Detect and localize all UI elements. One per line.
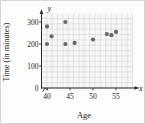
data-point <box>114 30 118 34</box>
data-point <box>45 42 49 46</box>
data-point <box>63 42 67 46</box>
data-point <box>63 20 67 24</box>
y-tick-label: 200 <box>27 40 39 49</box>
x-axis-title: Age <box>77 110 91 120</box>
data-point <box>91 38 95 42</box>
grid <box>42 14 134 89</box>
x-axis-letter: x <box>138 83 143 93</box>
y-axis-arrow-icon <box>40 9 44 14</box>
y-axis-title: Time (in minutes) <box>2 22 11 81</box>
data-point <box>50 34 54 38</box>
scatter-chart: 010020030040455055yxAgeTime (in minutes) <box>1 1 144 123</box>
x-tick-label: 55 <box>112 92 120 101</box>
y-tick-label: 100 <box>27 62 39 71</box>
data-point <box>73 41 77 45</box>
y-tick-label: 0 <box>35 84 39 93</box>
scatter-figure: 010020030040455055yxAgeTime (in minutes) <box>0 0 145 124</box>
y-tick-label: 300 <box>27 18 39 27</box>
x-tick-label: 50 <box>89 92 97 101</box>
x-tick-label: 40 <box>43 92 51 101</box>
data-point <box>109 33 113 37</box>
data-point <box>45 24 49 28</box>
data-point <box>105 32 109 36</box>
y-axis-letter: y <box>47 3 52 13</box>
x-tick-label: 45 <box>66 92 74 101</box>
